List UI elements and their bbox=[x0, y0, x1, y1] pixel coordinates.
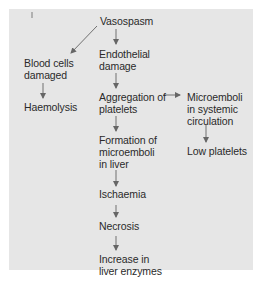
node-vasospasm: Vasospasm bbox=[100, 15, 153, 27]
node-necrosis: Necrosis bbox=[99, 220, 139, 232]
node-haemolysis: Haemolysis bbox=[24, 101, 77, 113]
arrow-vasospasm-to-blood-cells bbox=[71, 26, 97, 53]
node-microemboli-systemic: Microemboli in systemic circulation bbox=[187, 91, 243, 127]
node-endothelial-damage: Endothelial damage bbox=[99, 48, 150, 72]
node-formation-microemboli-liver: Formation of microemboli in liver bbox=[99, 134, 157, 170]
node-aggregation-of-platelets: Aggregation of platelets bbox=[99, 91, 166, 115]
node-low-platelets: Low platelets bbox=[187, 145, 247, 157]
node-increase-liver-enzymes: Increase in liver enzymes bbox=[99, 253, 162, 277]
node-ischaemia: Ischaemia bbox=[99, 188, 146, 200]
node-blood-cells-damaged: Blood cells damaged bbox=[24, 57, 74, 81]
